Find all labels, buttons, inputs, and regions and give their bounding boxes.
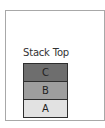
stack-block-c: C (24, 64, 67, 82)
stack-block-a: A (24, 100, 67, 117)
stack-block-b: B (24, 82, 67, 100)
stack-top-label: Stack Top (13, 47, 79, 58)
stack: C B A (23, 63, 68, 118)
